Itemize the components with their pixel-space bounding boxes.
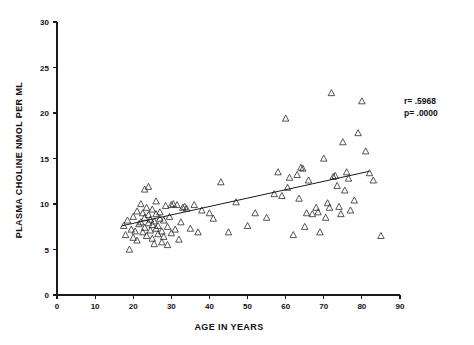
y-tick-label: 25 [40, 64, 49, 73]
y-tick-label: 10 [40, 200, 49, 209]
y-tick-label: 20 [40, 109, 49, 118]
y-axis-title: PLASMA CHOLINE NMOL PER ML [14, 82, 24, 239]
plot-background [0, 0, 474, 345]
y-tick-label: 5 [45, 246, 50, 255]
x-tick-label: 30 [167, 302, 176, 311]
plot-canvas: 0102030405060708090 051015202530 AGE IN … [0, 0, 474, 345]
x-tick-label: 40 [205, 302, 214, 311]
x-tick-label: 0 [55, 302, 60, 311]
x-axis-title: AGE IN YEARS [194, 322, 263, 332]
p-value-annotation: p= .0000 [404, 108, 438, 118]
x-tick-label: 50 [243, 302, 252, 311]
scatter-plot-figure: 0102030405060708090 051015202530 AGE IN … [0, 0, 474, 345]
correlation-annotation: r= .5968 [404, 96, 436, 106]
x-tick-label: 70 [319, 302, 328, 311]
x-tick-label: 10 [91, 302, 100, 311]
y-tick-label: 15 [40, 155, 49, 164]
x-tick-label: 20 [129, 302, 138, 311]
x-tick-label: 90 [396, 302, 405, 311]
y-tick-label: 0 [45, 291, 50, 300]
x-tick-label: 60 [281, 302, 290, 311]
x-tick-label: 80 [357, 302, 366, 311]
y-tick-label: 30 [40, 18, 49, 27]
